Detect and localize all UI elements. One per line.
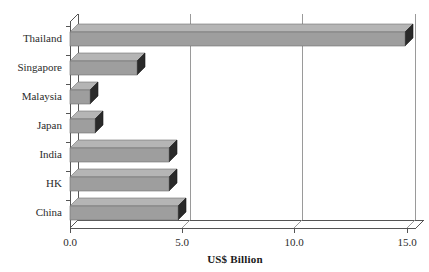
bar-india[interactable] [70, 140, 177, 162]
bar-thailand[interactable] [70, 24, 413, 46]
category-label-thailand: Thailand [23, 32, 63, 44]
bar-chart-svg: Thailand Singapore Malaysia Japan India … [0, 0, 429, 272]
bar-china[interactable] [70, 198, 186, 220]
category-label-india: India [39, 148, 62, 160]
x-tick-label-15: 15.0 [397, 236, 417, 248]
x-tick-label-0: 0.0 [63, 236, 77, 248]
bar-hk[interactable] [70, 169, 177, 191]
category-label-china: China [36, 206, 62, 218]
x-axis-title: US$ Billion [207, 253, 263, 265]
bar-japan[interactable] [70, 111, 103, 133]
category-label-japan: Japan [37, 119, 63, 131]
bar-singapore[interactable] [70, 53, 145, 75]
x-tick-label-5: 5.0 [175, 236, 189, 248]
category-label-singapore: Singapore [17, 61, 62, 73]
category-label-hk: HK [46, 177, 62, 189]
bar-chart-container: Thailand Singapore Malaysia Japan India … [0, 0, 429, 272]
category-label-malaysia: Malaysia [22, 90, 62, 102]
x-tick-label-10: 10.0 [284, 236, 304, 248]
